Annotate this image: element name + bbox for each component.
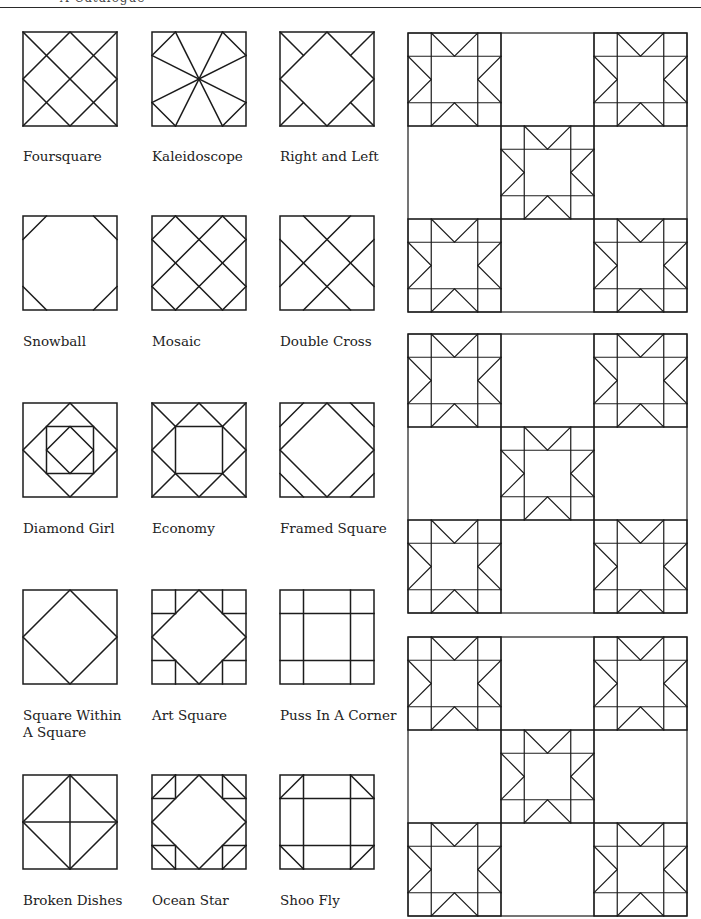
- label-framed-square: Framed Square: [280, 520, 387, 537]
- ocean-star-diagram: [152, 775, 246, 869]
- header-rule: [0, 7, 701, 8]
- block-shoo-fly: [280, 775, 374, 869]
- economy-diagram: [152, 403, 246, 497]
- block-ocean-star: [152, 775, 246, 869]
- block-economy: [152, 403, 246, 497]
- broken-dishes-diagram: [23, 775, 117, 869]
- right-and-left-diagram: [280, 32, 374, 126]
- art-square-diagram: [152, 590, 246, 684]
- label-double-cross: Double Cross: [280, 333, 372, 350]
- label-kaleidoscope: Kaleidoscope: [152, 148, 243, 165]
- block-mosaic: [152, 216, 246, 310]
- ohio-star-quilt-diagram: [408, 33, 687, 312]
- block-puss-in-a-corner: [280, 590, 374, 684]
- label-puss-in-a-corner: Puss In A Corner: [280, 707, 396, 724]
- label-mosaic: Mosaic: [152, 333, 201, 350]
- square-within-a-square-diagram: [23, 590, 117, 684]
- double-cross-diagram: [280, 216, 374, 310]
- quilt-panel-3: [408, 637, 687, 916]
- block-kaleidoscope: [152, 32, 246, 126]
- block-snowball: [23, 216, 117, 310]
- block-foursquare: [23, 32, 117, 126]
- label-diamond-girl: Diamond Girl: [23, 520, 115, 537]
- framed-square-diagram: [280, 403, 374, 497]
- foursquare-diagram: [23, 32, 117, 126]
- block-framed-square: [280, 403, 374, 497]
- mosaic-diagram: [152, 216, 246, 310]
- diamond-girl-diagram: [23, 403, 117, 497]
- block-square-within-a-square: [23, 590, 117, 684]
- label-square-within-a-square: Square Within A Square: [23, 707, 121, 741]
- label-economy: Economy: [152, 520, 215, 537]
- label-foursquare: Foursquare: [23, 148, 102, 165]
- ohio-star-quilt-diagram: [408, 637, 687, 916]
- quilt-panel-1: [408, 33, 687, 312]
- kaleidoscope-diagram: [152, 32, 246, 126]
- label-broken-dishes: Broken Dishes: [23, 892, 122, 909]
- block-double-cross: [280, 216, 374, 310]
- shoo-fly-diagram: [280, 775, 374, 869]
- label-ocean-star: Ocean Star: [152, 892, 229, 909]
- label-right-and-left: Right and Left: [280, 148, 379, 165]
- label-art-square: Art Square: [152, 707, 227, 724]
- puss-in-a-corner-diagram: [280, 590, 374, 684]
- ohio-star-quilt-diagram: [408, 334, 687, 613]
- block-art-square: [152, 590, 246, 684]
- running-header: A Catalogue: [60, 0, 145, 5]
- quilt-panel-2: [408, 334, 687, 613]
- block-broken-dishes: [23, 775, 117, 869]
- block-diamond-girl: [23, 403, 117, 497]
- block-right-and-left: [280, 32, 374, 126]
- snowball-diagram: [23, 216, 117, 310]
- label-snowball: Snowball: [23, 333, 86, 350]
- label-shoo-fly: Shoo Fly: [280, 892, 340, 909]
